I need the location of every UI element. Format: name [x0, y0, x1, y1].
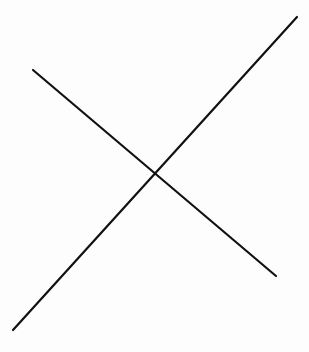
diagram-canvas: [0, 0, 309, 352]
crossing-lines-diagram: [0, 0, 309, 352]
line-segment-b: [13, 17, 297, 330]
